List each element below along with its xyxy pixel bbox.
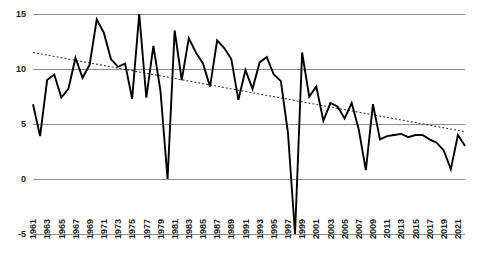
x-tick-label: 2011 [382, 219, 392, 239]
y-tick-label: 15 [16, 9, 26, 19]
x-tick-label: 2003 [326, 219, 336, 239]
x-tick-label: 1967 [71, 219, 81, 239]
x-tick-label: 2005 [340, 219, 350, 239]
x-tick-label: 1969 [85, 219, 95, 239]
trendline-series [33, 53, 465, 132]
x-tick-label: 1965 [57, 219, 67, 239]
line-chart: 151050-5 1961196319651967196919711973197… [0, 0, 478, 253]
x-tick-label: 1997 [283, 219, 293, 239]
x-tick-label: 1975 [127, 219, 137, 239]
x-tick-label: 2013 [396, 219, 406, 239]
x-tick-label: 2019 [439, 219, 449, 239]
x-tick-label: 1991 [241, 219, 251, 239]
x-tick-label: 1977 [142, 219, 152, 239]
x-tick-label: 2015 [411, 219, 421, 239]
gridlines [33, 14, 465, 234]
y-tick-label: 0 [21, 174, 26, 184]
x-tick-label: 1981 [170, 219, 180, 239]
x-tick-label: 1985 [198, 219, 208, 239]
x-tick-label: 2007 [354, 219, 364, 239]
x-tick-label: 2017 [425, 219, 435, 239]
x-tick-label: 1961 [28, 219, 38, 239]
x-tick-label: 1971 [99, 219, 109, 239]
chart-container: 151050-5 1961196319651967196919711973197… [0, 0, 478, 253]
x-tick-label: 2021 [453, 219, 463, 239]
x-tick-label: 1999 [297, 219, 307, 239]
x-tick-label: 2009 [368, 219, 378, 239]
x-tick-label: 1989 [226, 219, 236, 239]
x-tick-label: 2001 [311, 219, 321, 239]
y-tick-label: 5 [21, 119, 26, 129]
x-tick-label: 1993 [255, 219, 265, 239]
y-tick-label: 10 [16, 64, 26, 74]
x-tick-label: 1979 [156, 219, 166, 239]
x-tick-label: 1973 [113, 219, 123, 239]
y-tick-label: -5 [18, 229, 26, 239]
x-tick-label: 1987 [212, 219, 222, 239]
x-axis-tick-labels: 1961196319651967196919711973197519771979… [28, 219, 463, 239]
x-tick-label: 1963 [42, 219, 52, 239]
y-axis-tick-labels: 151050-5 [16, 9, 26, 239]
x-tick-label: 1983 [184, 219, 194, 239]
x-tick-label: 1995 [269, 219, 279, 239]
